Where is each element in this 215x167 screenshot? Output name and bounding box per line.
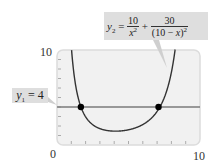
y1-callout-pointer xyxy=(48,97,57,105)
fraction-1-den-exp: 2 xyxy=(134,26,138,34)
plus-sign: + xyxy=(139,20,151,32)
y2-callout: y2 = 10x2 + 30(10 − x)2 xyxy=(104,12,208,40)
fraction-1: 10x2 xyxy=(127,16,139,39)
y1-callout: y1 = 4 xyxy=(12,88,48,103)
x-axis-min-label: 0 xyxy=(50,148,56,160)
fraction-2: 30(10 − x)2 xyxy=(151,16,188,39)
fraction-2-numerator: 30 xyxy=(151,16,188,28)
intersection-point xyxy=(155,104,161,110)
fraction-2-denominator: (10 − x)2 xyxy=(151,27,188,39)
y2-equals: = xyxy=(115,20,127,32)
intersection-point xyxy=(78,104,84,110)
fraction-1-denominator: x2 xyxy=(127,27,139,39)
fraction-2-den-open: (10 − xyxy=(152,28,176,39)
x-axis-max-label: 10 xyxy=(193,150,205,162)
fraction-2-den-exp: 2 xyxy=(184,26,188,34)
y-axis-max-label: 10 xyxy=(40,46,52,58)
y1-value: = 4 xyxy=(25,88,44,102)
